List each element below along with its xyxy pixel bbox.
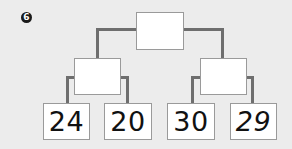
question-number-badge: 6: [21, 12, 32, 23]
leaf-box-3: 30: [167, 103, 215, 140]
connector-leaf-24-vertical: [66, 76, 69, 104]
connector-leaf-29-vertical: [251, 76, 254, 104]
middle-right-answer-box[interactable]: [200, 58, 247, 95]
leaf-value-1: 24: [49, 108, 84, 135]
root-answer-box[interactable]: [136, 12, 184, 50]
middle-left-answer-box[interactable]: [74, 58, 121, 95]
connector-leaf-30-vertical: [191, 76, 194, 104]
connector-root-right-vertical: [221, 28, 224, 59]
leaf-box-2: 20: [104, 103, 152, 140]
leaf-value-3: 30: [173, 108, 208, 135]
leaf-box-1: 24: [43, 103, 90, 140]
leaf-box-4: 29: [230, 103, 277, 140]
connector-leaf-20-vertical: [126, 76, 129, 104]
connector-root-left-vertical: [96, 28, 99, 59]
leaf-value-2: 20: [110, 108, 145, 135]
leaf-value-4: 29: [236, 108, 271, 135]
